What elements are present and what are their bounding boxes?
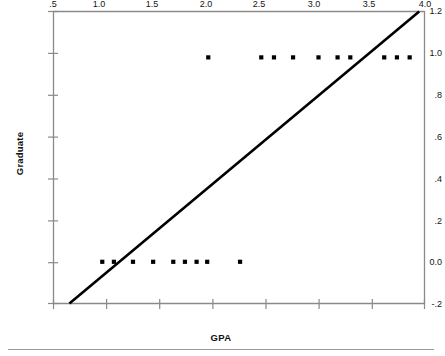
data-point (238, 260, 242, 264)
y-tick-label-7: -.2 (416, 300, 442, 309)
y-tick-label-5: .2 (416, 217, 442, 226)
x-tick-label-5: 3.0 (294, 0, 334, 9)
x-tick-label-0: .5 (33, 0, 73, 9)
data-point (183, 260, 187, 264)
data-point (195, 260, 199, 264)
data-point (395, 55, 399, 59)
regression-line (69, 12, 419, 304)
data-point (205, 260, 209, 264)
y-tick-label-1: 1.0 (416, 49, 442, 58)
data-point (316, 55, 320, 59)
data-point (291, 55, 295, 59)
footer-divider (8, 349, 434, 350)
data-point (335, 55, 339, 59)
x-tick-label-3: 2.0 (186, 0, 226, 9)
y-tick-label-2: .8 (416, 91, 442, 100)
x-axis-title: GPA (0, 332, 442, 343)
scatter-markers (100, 55, 412, 264)
data-point (348, 55, 352, 59)
y-tick-label-4: .4 (416, 175, 442, 184)
data-point (408, 55, 412, 59)
y-tick-label-6: 0.0 (416, 258, 442, 267)
x-tick-label-4: 2.5 (239, 0, 279, 9)
y-axis-title: Graduate (14, 114, 25, 194)
x-tick-label-7: 4.0 (405, 0, 445, 9)
data-point (259, 55, 263, 59)
data-point (171, 260, 175, 264)
data-point (100, 260, 104, 264)
x-tick-label-2: 1.5 (132, 0, 172, 9)
data-point (206, 55, 210, 59)
data-point (382, 55, 386, 59)
y-tick-label-3: .6 (416, 133, 442, 142)
data-point (151, 260, 155, 264)
x-tick-label-1: 1.0 (79, 0, 119, 9)
x-tick-label-6: 3.5 (349, 0, 389, 9)
data-point (112, 260, 116, 264)
data-point (272, 55, 276, 59)
data-point (131, 260, 135, 264)
